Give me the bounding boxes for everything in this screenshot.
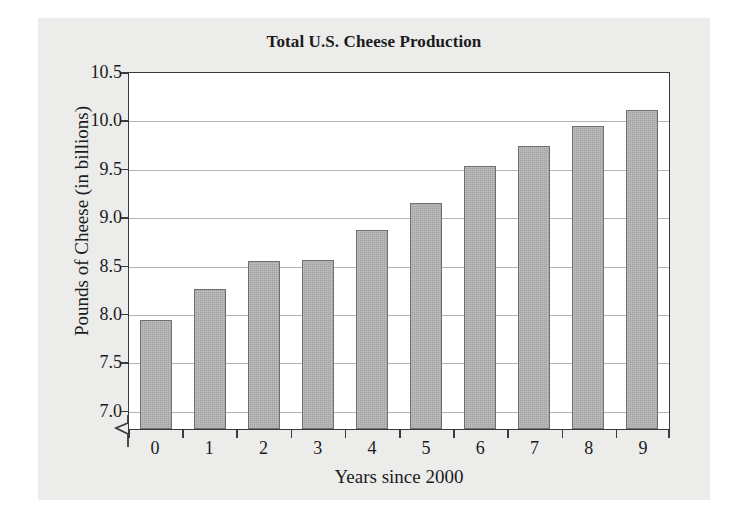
bar[interactable]: [572, 126, 603, 429]
y-axis-tick-mark: [121, 314, 129, 316]
x-axis-title: Years since 2000: [128, 466, 670, 488]
bar-slot: [615, 73, 669, 429]
bar[interactable]: [302, 260, 333, 429]
y-axis-tick-mark: [121, 72, 129, 74]
x-axis-tick-labels: 0123456789: [128, 438, 670, 459]
chart-figure-panel: Total U.S. Cheese Production Pounds of C…: [38, 18, 710, 500]
y-axis-tick-label: 8.0: [78, 303, 122, 324]
bar-slot: [291, 73, 345, 429]
y-axis-tick-label: 8.5: [78, 255, 122, 276]
y-axis-tick-label: 10.5: [78, 62, 122, 83]
bar[interactable]: [356, 230, 387, 429]
bar[interactable]: [410, 203, 441, 429]
x-axis-tick-mark: [182, 430, 184, 438]
bar-series: [129, 73, 669, 429]
x-axis-tick-label: 6: [453, 438, 507, 459]
y-axis-tick-mark: [121, 411, 129, 413]
bar-slot: [399, 73, 453, 429]
x-axis-tick-label: 1: [182, 438, 236, 459]
x-axis-tick-label: 5: [399, 438, 453, 459]
y-axis-tick-label: 10.0: [78, 110, 122, 131]
x-axis-tick-mark: [291, 430, 293, 438]
y-axis-tick-label: 7.5: [78, 352, 122, 373]
x-axis-tick-label: 4: [345, 438, 399, 459]
bar-slot: [453, 73, 507, 429]
x-axis-tick-mark: [399, 430, 401, 438]
x-axis-tick-label: 7: [507, 438, 561, 459]
y-axis-tick-label: 9.0: [78, 207, 122, 228]
x-axis-tick-mark: [236, 430, 238, 438]
bar[interactable]: [248, 261, 279, 429]
bar-slot: [507, 73, 561, 429]
x-axis-tick-mark: [616, 430, 618, 438]
y-axis-tick-labels: 10.510.09.59.08.58.07.57.0: [72, 72, 122, 430]
bar-slot: [561, 73, 615, 429]
y-axis-tick-mark: [121, 120, 129, 122]
bar[interactable]: [194, 289, 225, 429]
y-axis-tick-mark: [121, 362, 129, 364]
bar[interactable]: [464, 166, 495, 429]
bar-slot: [237, 73, 291, 429]
bar-slot: [345, 73, 399, 429]
y-axis-tick-mark: [121, 169, 129, 171]
x-axis-tick-marks: [128, 430, 670, 438]
x-axis-tick-label: 9: [616, 438, 670, 459]
bar[interactable]: [626, 110, 657, 429]
y-axis-tick-label: 9.5: [78, 158, 122, 179]
bar-slot: [183, 73, 237, 429]
x-axis-tick-mark: [453, 430, 455, 438]
bar-slot: [129, 73, 183, 429]
x-axis-tick-mark: [507, 430, 509, 438]
x-axis-tick-mark: [668, 430, 670, 438]
y-axis-tick-mark: [121, 266, 129, 268]
x-axis-tick-mark: [562, 430, 564, 438]
x-axis-tick-mark: [128, 430, 130, 438]
x-axis-tick-label: 8: [562, 438, 616, 459]
x-axis-tick-label: 2: [236, 438, 290, 459]
x-axis-tick-label: 0: [128, 438, 182, 459]
plot-area: [128, 72, 670, 430]
x-axis-tick-label: 3: [291, 438, 345, 459]
bar[interactable]: [140, 320, 171, 429]
x-axis-tick-mark: [345, 430, 347, 438]
bar[interactable]: [518, 146, 549, 429]
y-axis-tick-mark: [121, 217, 129, 219]
chart-title: Total U.S. Cheese Production: [38, 32, 710, 52]
